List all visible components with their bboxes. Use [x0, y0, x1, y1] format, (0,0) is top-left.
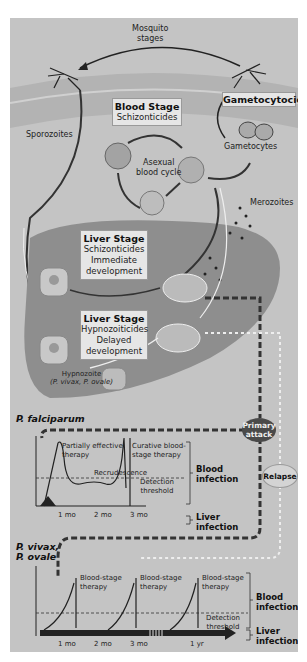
falc-tick-2mo: 2 mo	[94, 510, 112, 520]
therapy-2-line2: therapy	[140, 583, 182, 592]
therapy-label-2: Blood-stage therapy	[140, 574, 182, 592]
asexual-cycle-label: Asexual blood cycle	[136, 158, 181, 178]
therapy-3-line2: therapy	[202, 583, 244, 592]
therapy-3-line1: Blood-stage	[202, 574, 244, 583]
primary-line1: Primary	[242, 421, 275, 430]
gametocytocides-label: Gametocytocides	[223, 94, 295, 105]
liver-stage-schizonticides-box: Liver Stage Schizonticides Immediate dev…	[80, 230, 148, 280]
vivax-title-line2: P. ovale	[16, 552, 59, 562]
hypnozoite-line1: Hypnozoite	[50, 370, 113, 378]
partial-line1: Partially effective	[62, 442, 123, 451]
hypnozoite-label: Hypnozoite (P. vivax, P. ovale)	[50, 370, 113, 386]
vivax-tick-1yr: 1 yr	[190, 639, 204, 649]
liver-stage-1-note1: Immediate	[81, 255, 147, 266]
liver-schizont-2	[156, 324, 200, 352]
blood-stage-title: Blood Stage	[113, 101, 181, 112]
vivax-blood-line1: Blood	[256, 592, 298, 602]
vivax-liver-timeline	[40, 630, 225, 636]
falc-detection-line1: Detection	[140, 478, 174, 487]
schizont-cell	[105, 143, 131, 169]
vivax-liver-infection-label: Liver infection	[256, 626, 298, 646]
therapy-label-1: Blood-stage therapy	[80, 574, 122, 592]
liver-stage-2-note2: development	[81, 346, 147, 357]
falciparum-liver-infection-label: Liver infection	[196, 512, 238, 532]
primary-line2: attack	[242, 430, 275, 439]
blood-stage-box: Blood Stage Schizonticides	[112, 98, 182, 126]
falc-detection-line2: threshold	[140, 487, 174, 496]
vivax-detection-line2: threshold	[206, 623, 240, 632]
malaria-lifecycle-figure: Mosquito stages Gametocytocides Sporozoi…	[10, 18, 298, 652]
therapy-2-line1: Blood-stage	[140, 574, 182, 583]
liver-stage-1-title: Liver Stage	[81, 233, 147, 244]
falciparum-blood-infection-label: Blood infection	[196, 464, 238, 484]
vivax-detection-line1: Detection	[206, 614, 240, 623]
vivax-detection-label: Detection threshold	[206, 614, 240, 632]
vivax-title: P. vivax, P. ovale	[16, 542, 59, 562]
liver-stage-hypnozoiticides-box: Liver Stage Hypnozoiticides Delayed deve…	[80, 310, 148, 360]
curative-therapy-label: Curative blood- stage therapy	[132, 442, 186, 460]
relapse-oval: Relapse	[262, 464, 298, 488]
falciparum-detection-label: Detection threshold	[140, 478, 174, 496]
asexual-line2: blood cycle	[136, 168, 181, 178]
vivax-tick-2mo: 2 mo	[94, 639, 112, 649]
relapse-label: Relapse	[263, 472, 296, 481]
gametocytes-label: Gametocytes	[224, 142, 277, 152]
merozoites-label: Merozoites	[250, 198, 293, 208]
red-blood-cell	[178, 157, 204, 183]
vivax-tick-1mo: 1 mo	[58, 639, 76, 649]
blood-stage-subtitle: Schizonticides	[117, 112, 178, 122]
liver-stage-2-note1: Delayed	[81, 335, 147, 346]
liver-stage-2-subtitle: Hypnozoiticides	[81, 324, 147, 335]
primary-attack-oval: Primaryattack	[242, 418, 276, 442]
therapy-label-3: Blood-stage therapy	[202, 574, 244, 592]
vivax-liver-line1: Liver	[256, 626, 298, 636]
falc-tick-3mo: 3 mo	[130, 510, 148, 520]
curative-line2: stage therapy	[132, 451, 186, 460]
mosquito-label-line1: Mosquito	[132, 24, 168, 34]
vivax-tick-3mo: 3 mo	[130, 639, 148, 649]
falciparum-title: P. falciparum	[16, 414, 85, 424]
liver-stage-1-note2: development	[81, 266, 147, 277]
liver-stage-1-subtitle: Schizonticides	[81, 244, 147, 255]
falc-liver-line1: Liver	[196, 512, 238, 522]
partial-therapy-label: Partially effective therapy	[62, 442, 123, 460]
falc-liver-line2: infection	[196, 522, 238, 532]
mosquito-arc-arrow	[80, 47, 240, 68]
mosquito-label-line2: stages	[132, 34, 168, 44]
vivax-liver-line2: infection	[256, 636, 298, 646]
mosquito-stages-label: Mosquito stages	[132, 24, 168, 44]
vivax-blood-line2: infection	[256, 602, 298, 612]
falc-blood-line1: Blood	[196, 464, 238, 474]
sporozoites-label: Sporozoites	[26, 130, 73, 140]
recrudescence-label: Recrudescence	[94, 468, 147, 478]
hypnozoite-line2: (P. vivax, P. ovale)	[50, 378, 113, 386]
asexual-line1: Asexual	[136, 158, 181, 168]
liver-schizont-1	[163, 274, 207, 302]
partial-line2: therapy	[62, 451, 123, 460]
liver-stage-2-title: Liver Stage	[81, 313, 147, 324]
ring-stage-cell	[140, 191, 164, 215]
gametocyte-cell	[239, 122, 257, 138]
curative-line1: Curative blood-	[132, 442, 186, 451]
therapy-1-line1: Blood-stage	[80, 574, 122, 583]
vivax-blood-infection-label: Blood infection	[256, 592, 298, 612]
gametocytocides-box: Gametocytocides	[222, 92, 296, 107]
falc-blood-line2: infection	[196, 474, 238, 484]
therapy-1-line2: therapy	[80, 583, 122, 592]
falc-tick-1mo: 1 mo	[58, 510, 76, 520]
